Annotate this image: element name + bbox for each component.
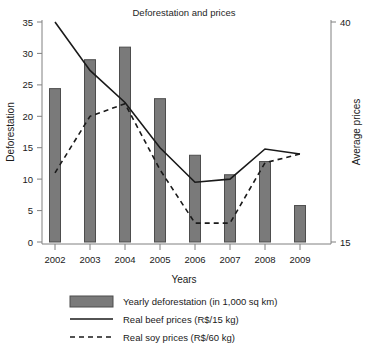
bar-2009 — [295, 206, 306, 242]
x-tick-label-2009: 2009 — [289, 254, 310, 265]
x-tick-label-2008: 2008 — [254, 254, 275, 265]
y-tick-label-20: 20 — [22, 111, 33, 122]
bar-2004 — [120, 47, 131, 242]
y-tick-label-30: 30 — [22, 48, 33, 59]
legend-label-beef: Real beef prices (R$/15 kg) — [123, 314, 239, 325]
deforestation-and-prices-chart: Deforestation and prices 0 5 10 15 20 25… — [0, 0, 368, 351]
x-tick-label-2007: 2007 — [219, 254, 240, 265]
x-tick-label-2005: 2005 — [149, 254, 170, 265]
y2-tick-label-15: 15 — [340, 237, 351, 248]
y-tick-label-0: 0 — [28, 237, 33, 248]
y-tick-label-15: 15 — [22, 142, 33, 153]
x-tick-label-2003: 2003 — [79, 254, 100, 265]
legend-swatch-bar — [70, 296, 113, 307]
y2-tick-label-40: 40 — [340, 17, 351, 28]
y-axis-ticks — [37, 22, 42, 242]
y-tick-label-10: 10 — [22, 174, 33, 185]
legend-label-deforestation: Yearly deforestation (in 1,000 sq km) — [123, 296, 277, 307]
x-axis-ticks — [55, 244, 300, 250]
y-tick-label-35: 35 — [22, 17, 33, 28]
bar-2007 — [225, 175, 236, 242]
y-axis-label: Deforestation — [5, 102, 16, 161]
legend-label-soy: Real soy prices (R$/60 kg) — [123, 332, 235, 343]
y-tick-label-25: 25 — [22, 79, 33, 90]
bar-series-deforestation — [50, 47, 306, 242]
x-tick-label-2002: 2002 — [44, 254, 65, 265]
chart-title: Deforestation and prices — [133, 7, 236, 18]
bar-2006 — [190, 155, 201, 242]
chart-legend: Yearly deforestation (in 1,000 sq km) Re… — [70, 296, 277, 343]
x-tick-label-2004: 2004 — [114, 254, 135, 265]
bar-2002 — [50, 89, 61, 242]
bar-2008 — [260, 162, 271, 242]
y-tick-label-5: 5 — [28, 205, 33, 216]
bar-2003 — [85, 60, 96, 242]
y2-axis-ticks — [331, 22, 336, 242]
bar-2005 — [155, 99, 166, 242]
chart-figure: Deforestation and prices 0 5 10 15 20 25… — [0, 0, 368, 351]
y2-axis-label: Average prices — [351, 99, 362, 166]
x-tick-label-2006: 2006 — [184, 254, 205, 265]
x-axis-label: Years — [171, 274, 196, 285]
